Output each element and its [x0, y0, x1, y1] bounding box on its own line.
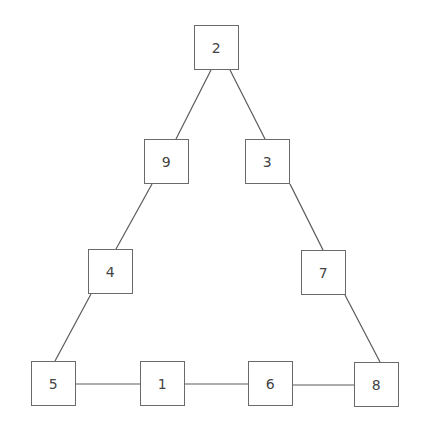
node-label: 9	[162, 154, 171, 170]
node-label: 1	[158, 376, 167, 392]
node-box-left-middle: 4	[88, 249, 133, 294]
node-box-bottom-left-corner: 5	[31, 361, 76, 406]
edge-7-8	[345, 295, 380, 362]
node-label: 2	[212, 40, 221, 56]
edge-2-9	[176, 70, 211, 139]
node-label: 4	[106, 264, 115, 280]
node-box-top: 2	[194, 25, 239, 70]
node-box-bottom-right-corner: 8	[354, 362, 399, 407]
node-box-bottom-inner-right: 6	[248, 361, 293, 406]
node-label: 3	[263, 154, 272, 170]
node-label: 5	[49, 376, 58, 392]
node-label: 6	[266, 376, 275, 392]
node-label: 7	[319, 265, 328, 281]
node-label: 8	[372, 377, 381, 393]
node-box-bottom-inner-left: 1	[140, 361, 185, 406]
edge-4-5	[55, 294, 91, 361]
node-box-right-upper: 3	[245, 139, 290, 184]
node-box-right-middle: 7	[301, 250, 346, 295]
edge-3-7	[290, 184, 323, 250]
edge-2-3	[230, 70, 265, 139]
node-box-left-upper: 9	[144, 139, 189, 184]
number-triangle-diagram: 2 9 3 4 7 5 1 6 8	[0, 0, 423, 433]
edge-9-4	[116, 184, 152, 249]
